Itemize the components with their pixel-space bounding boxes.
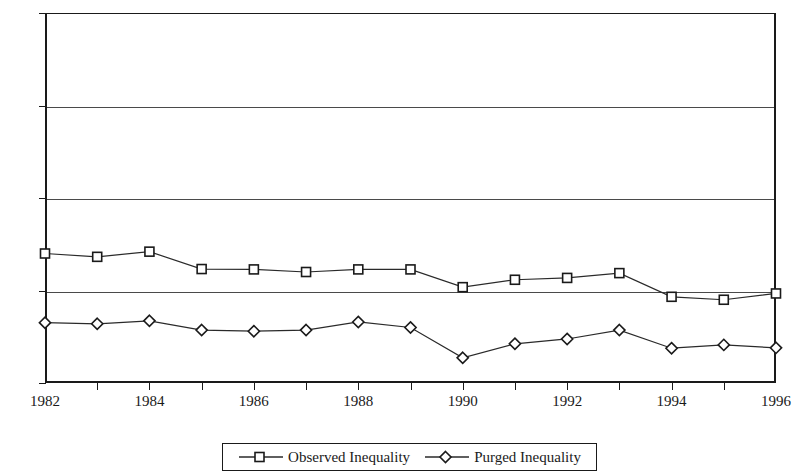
- x-tick-mark: [306, 383, 307, 390]
- x-tick-mark: [411, 383, 412, 390]
- inequality-line-chart: 1.000.750.500.250.00 1982198419861988199…: [0, 0, 796, 471]
- y-tick-mark: [39, 291, 46, 292]
- plot-area: [45, 13, 776, 383]
- gridline: [47, 199, 774, 200]
- y-tick-label: 0.25: [0, 283, 7, 298]
- x-tick-mark: [619, 383, 620, 390]
- y-tick-mark: [39, 198, 46, 199]
- x-tick-mark: [149, 383, 150, 390]
- legend-entry-purged: Purged Inequality: [424, 450, 581, 465]
- chart-legend: Observed Inequality Purged Inequality: [222, 443, 597, 471]
- x-tick-label: 1990: [448, 393, 478, 410]
- x-tick-label: 1982: [30, 393, 60, 410]
- legend-label-observed: Observed Inequality: [284, 450, 410, 465]
- x-tick-label: 1994: [657, 393, 687, 410]
- x-tick-mark: [724, 383, 725, 390]
- x-tick-mark: [463, 383, 464, 390]
- x-tick-label: 1992: [552, 393, 582, 410]
- y-tick-mark: [39, 106, 46, 107]
- x-tick-mark: [254, 383, 255, 390]
- y-tick-label: 1.00: [0, 5, 7, 20]
- x-tick-mark: [515, 383, 516, 390]
- x-tick-mark: [672, 383, 673, 390]
- y-tick-mark: [39, 383, 46, 384]
- diamond-marker-icon: [424, 450, 470, 464]
- gridline: [47, 292, 774, 293]
- gridline: [47, 107, 774, 108]
- y-tick-mark: [39, 13, 46, 14]
- x-tick-mark: [358, 383, 359, 390]
- legend-label-purged: Purged Inequality: [470, 450, 581, 465]
- y-tick-label: 0.50: [0, 190, 7, 205]
- legend-entry-observed: Observed Inequality: [238, 450, 410, 465]
- x-tick-mark: [202, 383, 203, 390]
- square-marker-icon: [238, 450, 284, 464]
- x-tick-mark: [567, 383, 568, 390]
- x-tick-mark: [97, 383, 98, 390]
- x-tick-label: 1988: [343, 393, 373, 410]
- x-tick-label: 1996: [761, 393, 791, 410]
- y-tick-label: 0.75: [0, 98, 7, 113]
- x-tick-label: 1984: [134, 393, 164, 410]
- y-tick-label: 0.00: [0, 375, 7, 390]
- x-tick-label: 1986: [239, 393, 269, 410]
